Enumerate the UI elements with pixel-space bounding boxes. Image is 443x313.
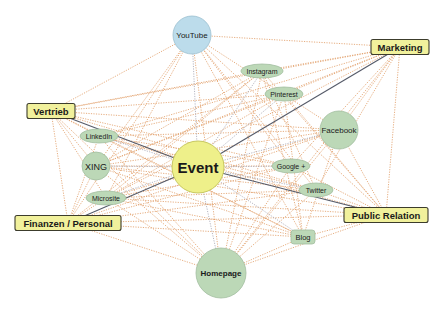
node-homepage[interactable]: Homepage: [196, 248, 246, 298]
node-youtube[interactable]: YouTube: [173, 16, 211, 54]
microsite-label: Microsite: [92, 195, 120, 202]
marketing-label: Marketing: [378, 42, 423, 53]
edge-marketing-youtube: [192, 35, 400, 47]
node-event[interactable]: Event: [172, 141, 224, 193]
edge-youtube-blog: [192, 35, 303, 237]
instagram-label: Instagram: [246, 68, 277, 76]
network-diagram: YouTube Facebook XING Homepage Instagram…: [0, 0, 443, 313]
node-instagram[interactable]: Instagram: [241, 64, 283, 78]
node-pinterest[interactable]: Pinterest: [265, 87, 303, 101]
node-vertrieb[interactable]: Vertrieb: [27, 104, 75, 119]
linkedin-label: LinkedIn: [86, 133, 113, 140]
blog-label: Blog: [295, 233, 310, 242]
node-linkedin[interactable]: LinkedIn: [80, 129, 118, 143]
google-plus-label: Google +: [277, 163, 306, 171]
edge-vertrieb-youtube: [51, 35, 192, 111]
vertrieb-label: Vertrieb: [33, 106, 69, 117]
edge-homepage-pinterest: [221, 94, 284, 273]
finanzen-personal-label: Finanzen / Personal: [23, 218, 112, 229]
node-finanzen-personal[interactable]: Finanzen / Personal: [15, 216, 121, 231]
node-xing[interactable]: XING: [82, 152, 110, 180]
edge-vertrieb-pinterest: [51, 94, 284, 111]
edge-public_relation-xing: [96, 166, 386, 215]
pinterest-label: Pinterest: [270, 91, 298, 98]
node-public-relation[interactable]: Public Relation: [344, 208, 428, 223]
node-blog[interactable]: Blog: [291, 230, 315, 244]
homepage-label: Homepage: [201, 269, 242, 278]
xing-label: XING: [85, 162, 107, 172]
edge-marketing-public_relation: [386, 47, 400, 215]
node-twitter[interactable]: Twitter: [299, 183, 333, 197]
youtube-label: YouTube: [176, 31, 208, 40]
edge-vertrieb-finanzen: [51, 111, 68, 223]
twitter-label: Twitter: [306, 187, 327, 194]
node-facebook[interactable]: Facebook: [320, 111, 358, 149]
node-microsite[interactable]: Microsite: [86, 191, 126, 205]
event-label: Event: [178, 159, 219, 176]
node-marketing[interactable]: Marketing: [371, 40, 429, 55]
public-relation-label: Public Relation: [352, 210, 421, 221]
node-google-plus[interactable]: Google +: [272, 159, 310, 173]
facebook-label: Facebook: [321, 126, 357, 135]
